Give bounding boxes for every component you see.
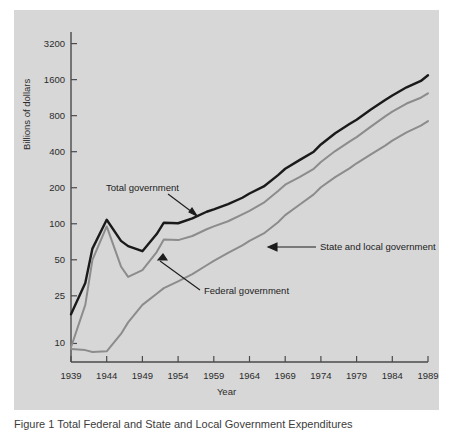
y-tick-label: 25 [25,290,65,301]
y-tick-label: 10 [25,337,65,348]
total-government-arrow [189,208,197,216]
chart-plot [0,0,453,432]
x-axis-title: Year [0,386,453,397]
total-government-label: Total government [106,182,179,193]
y-tick-label: 800 [25,110,65,121]
x-tick-label: 1949 [122,370,162,381]
x-tick-label: 1989 [408,370,448,381]
federal-government-label: Federal government [204,285,289,296]
y-tick-label: 50 [25,254,65,265]
x-tick-label: 1959 [194,370,234,381]
chart-series-layer [71,75,428,352]
x-tick-label: 1964 [230,370,270,381]
x-tick-label: 1944 [87,370,127,381]
annotation-leader-lines [158,194,316,290]
y-tick-label: 200 [25,182,65,193]
x-tick-label: 1984 [372,370,412,381]
series-line-federal-government [71,93,428,347]
y-axis-ticks [71,44,77,344]
x-tick-label: 1939 [51,370,91,381]
y-tick-label: 3200 [25,38,65,49]
figure-caption: Figure 1 Total Federal and State and Loc… [14,418,439,430]
state-local-arrow [268,243,277,251]
x-tick-label: 1954 [158,370,198,381]
series-line-total-government [71,75,428,314]
federal-arrow [158,254,167,260]
y-tick-label: 100 [25,218,65,229]
federal-leader [160,261,200,290]
y-tick-label: 1600 [25,74,65,85]
x-tick-label: 1969 [265,370,305,381]
chart-axes [71,32,428,362]
y-tick-label: 400 [25,146,65,157]
x-tick-label: 1974 [301,370,341,381]
x-axis-ticks [71,356,428,362]
figure-container: Billions of dollars Year 102550100200400… [0,0,453,432]
series-line-state-and-local-government [71,121,428,352]
state-and-local-government-label: State and local government [320,241,436,252]
x-tick-label: 1979 [337,370,377,381]
